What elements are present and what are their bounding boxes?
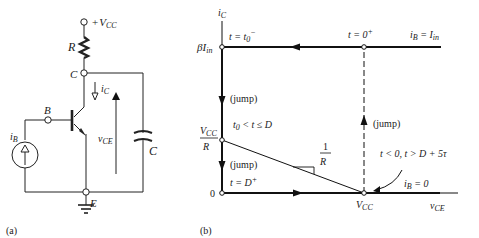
- annot-t-0-plus: t = 0+: [348, 27, 373, 40]
- annot-jump-top: (jump): [230, 93, 257, 105]
- diagram-canvas: +VCC R C B E iC vCE C iB (a): [0, 0, 479, 238]
- x-axis-label: vCE: [430, 200, 445, 213]
- annot-t-d-plus: t = D+: [230, 175, 257, 188]
- capacitor-label: C: [149, 144, 158, 158]
- annot-jump-right: (jump): [373, 118, 400, 130]
- circuit-a: [12, 19, 152, 213]
- ic-label: iC: [101, 83, 110, 96]
- emitter-node-label: E: [89, 197, 97, 209]
- base-node: [45, 117, 51, 123]
- y-axis-label: iC: [218, 7, 227, 20]
- tick-vcc-r-den: R: [202, 141, 209, 152]
- annot-jump-mid: (jump): [230, 159, 257, 171]
- emitter-node: [83, 189, 89, 195]
- panel-b-label: (b): [200, 225, 212, 237]
- jump-up-arrow: [361, 115, 368, 125]
- jump-down-arrow-2: [219, 161, 226, 171]
- tick-vcc-r-num: VCC: [200, 125, 217, 138]
- node-vcc-r: [220, 138, 225, 143]
- ic-arrow-icon: [92, 93, 98, 100]
- vcc-terminal: [81, 19, 87, 25]
- annot-ib-zero: iB = 0: [404, 178, 428, 191]
- resistor-label: R: [67, 40, 76, 54]
- resistor-r: [80, 37, 88, 58]
- slope-den: R: [319, 156, 326, 167]
- supply-label: +VCC: [92, 16, 117, 30]
- annot-t0-range: t0 < t ≤ D: [233, 119, 273, 132]
- slope-num: 1: [323, 141, 328, 152]
- graph-b: [219, 21, 459, 197]
- node-beta-iin: [220, 45, 225, 50]
- source-arrow-icon: [21, 145, 29, 152]
- collector-node: [81, 70, 87, 76]
- top-left-arrow: [290, 44, 300, 51]
- tick-vcc: VCC: [356, 199, 373, 212]
- node-t0-plus: [362, 45, 367, 50]
- node-origin: [220, 191, 225, 196]
- panel-a-label: (a): [6, 225, 17, 237]
- vce-label: vCE: [98, 133, 113, 146]
- tick-zero: 0: [210, 188, 215, 199]
- bottom-right-arrow: [293, 190, 303, 197]
- emitter-arrow: [79, 128, 86, 136]
- ib-source-label: iB: [10, 131, 18, 144]
- annot-ib-iin: iB = Iin: [410, 29, 439, 42]
- collector-node-label: C: [70, 68, 78, 80]
- base-node-label: B: [44, 104, 51, 116]
- node-vcc: [362, 191, 367, 196]
- annot-t-t0-minus: t = t0−: [229, 28, 256, 44]
- jump-down-arrow-1: [219, 96, 226, 106]
- tick-beta-iin: βIin: [196, 41, 212, 55]
- annot-t-lt0: t < 0, t > D + 5τ: [380, 148, 447, 159]
